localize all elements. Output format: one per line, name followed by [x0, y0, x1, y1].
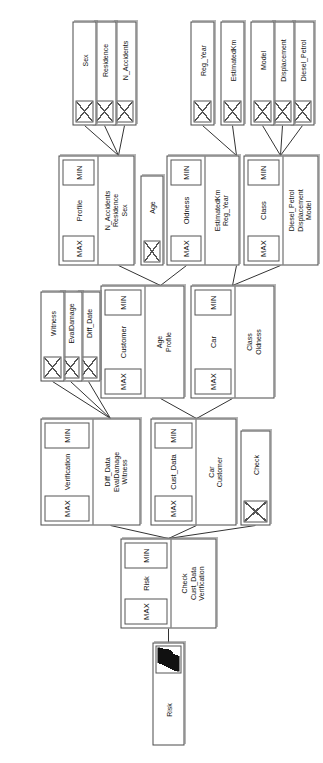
node-verification[interactable]: MAX Verification MIN Diff_Data EvalDamag…	[40, 418, 140, 525]
displacement-hatch-icon	[273, 100, 291, 122]
node-oldness-min: MIN	[170, 159, 201, 185]
node-class-min: MIN	[247, 159, 279, 185]
node-cust-data[interactable]: MAX Cust_Data MIN Car Customer	[150, 418, 236, 525]
node-profile-min: MIN	[62, 159, 94, 185]
node-cust-data-max: MAX	[154, 495, 192, 521]
node-profile-child-1: Residence	[111, 193, 120, 226]
node-customer-min: MIN	[104, 289, 141, 315]
age-hatch-icon	[143, 240, 160, 262]
edge-profile-to-n-accidents	[118, 125, 124, 155]
node-customer-title: Customer	[101, 318, 144, 365]
edge-class-to-diesel-petrol	[280, 125, 302, 155]
node-estimatedkm-label: EstimatedKm	[221, 22, 243, 98]
node-car[interactable]: MAX Car MIN Class Oldness	[190, 285, 274, 398]
reg-year-hatch-icon	[193, 100, 211, 122]
edge-profile-to-residence	[104, 125, 118, 155]
node-verification-child-2: Witness	[120, 459, 129, 484]
node-car-max: MAX	[194, 368, 231, 394]
node-class-children: Diesel_Petrol Displacement Model	[282, 156, 317, 264]
node-customer-children: Age Profile	[144, 286, 183, 397]
edge-class-to-displacement	[280, 125, 282, 155]
node-age-label: Age	[141, 176, 162, 238]
node-oldness-max: MAX	[170, 235, 201, 261]
node-class-child-2: Model	[304, 200, 313, 219]
node-reg-year[interactable]: Reg_Year	[190, 21, 214, 125]
edge-class-to-model	[262, 125, 280, 155]
model-hatch-icon	[253, 100, 271, 122]
node-oldness-children: EstimatedKm Reg_Year	[204, 156, 238, 264]
node-profile-child-0: N_Accidents	[103, 190, 112, 229]
diagram-canvas: Risk MAX Risk MIN Check Cust_Data Verifi…	[0, 0, 323, 763]
node-class-child-1: Displacement	[296, 189, 305, 231]
node-profile-header: MAX Profile MIN	[59, 156, 97, 264]
node-car-min: MIN	[194, 289, 231, 315]
node-class-child-0: Diesel_Petrol	[287, 189, 296, 231]
node-oldness-child-1: Reg_Year	[221, 195, 230, 226]
node-class-max: MAX	[247, 235, 279, 261]
node-cust-data-min: MIN	[154, 422, 192, 448]
node-class[interactable]: MAX Class MIN Diesel_Petrol Displacement…	[243, 155, 318, 265]
node-check[interactable]: Check	[240, 430, 270, 525]
node-risk[interactable]: MAX Risk MIN Check Cust_Data Verificatio…	[120, 538, 216, 628]
node-profile-max: MAX	[62, 235, 94, 261]
check-hatch-icon	[243, 500, 267, 522]
edge-customer-to-age	[160, 265, 186, 285]
node-sex-label: Sex	[73, 22, 95, 98]
node-profile-children: N_Accidents Residence Sex	[97, 156, 133, 264]
residence-hatch-icon	[95, 100, 113, 122]
node-risk-root-label: Risk	[153, 675, 183, 744]
node-age[interactable]: Age	[140, 175, 163, 265]
node-model[interactable]: Model	[250, 21, 274, 125]
node-customer-child-0: Age	[155, 335, 164, 347]
node-oldness-header: MAX Oldness MIN	[167, 156, 204, 264]
node-cust-data-title: Cust_Data	[151, 451, 195, 492]
edge-risk-to-check	[168, 525, 255, 538]
node-cust-data-header: MAX Cust_Data MIN	[151, 419, 195, 524]
node-risk-title: Risk	[121, 571, 170, 595]
node-risk-child-1: Cust_Data	[189, 566, 198, 599]
estimatedkm-hatch-icon	[223, 100, 241, 122]
node-car-child-0: Class	[245, 333, 254, 351]
node-car-title: Car	[191, 318, 234, 365]
node-class-header: MAX Class MIN	[244, 156, 282, 264]
node-customer-child-1: Profile	[164, 332, 173, 352]
edge-cust-data-to-car	[196, 398, 232, 418]
edge-car-to-oldness	[232, 265, 236, 285]
sex-hatch-icon	[75, 100, 93, 122]
node-customer-max: MAX	[104, 368, 141, 394]
node-estimatedkm[interactable]: EstimatedKm	[220, 21, 244, 125]
node-profile[interactable]: MAX Profile MIN N_Accidents Residence Se…	[58, 155, 134, 265]
node-cust-data-children: Car Customer	[195, 419, 235, 524]
node-car-children: Class Oldness	[234, 286, 273, 397]
node-profile-child-2: Sex	[120, 204, 129, 216]
node-cust-data-child-0: Car	[207, 466, 216, 477]
node-cust-data-child-1: Customer	[215, 456, 224, 486]
edge-car-to-class	[232, 265, 280, 285]
n-accidents-hatch-icon	[115, 100, 133, 122]
node-car-header: MAX Car MIN	[191, 286, 234, 397]
node-risk-root[interactable]: Risk	[152, 642, 184, 745]
node-risk-header: MAX Risk MIN	[121, 539, 170, 627]
diesel-petrol-hatch-icon	[293, 100, 311, 122]
node-model-label: Model	[251, 22, 273, 98]
node-class-title: Class	[244, 188, 282, 232]
node-verification-children: Diff_Data EvalDamage Witness	[92, 419, 139, 524]
node-verification-child-0: Diff_Data	[103, 457, 112, 486]
witness-hatch-icon	[43, 356, 61, 378]
node-sex[interactable]: Sex	[72, 21, 96, 125]
edge-customer-to-profile	[118, 265, 160, 285]
node-oldness[interactable]: MAX Oldness MIN EstimatedKm Reg_Year	[166, 155, 239, 265]
node-reg-year-label: Reg_Year	[191, 22, 213, 98]
edge-profile-to-sex	[84, 125, 118, 155]
edge-oldness-to-estimatedkm	[232, 125, 236, 155]
node-witness-label: Witness	[41, 292, 63, 354]
node-profile-title: Profile	[59, 188, 97, 232]
node-risk-max: MAX	[124, 598, 167, 624]
node-oldness-child-0: EstimatedKm	[213, 189, 222, 231]
node-verification-max: MAX	[44, 495, 89, 521]
node-check-label: Check	[241, 431, 269, 498]
node-witness[interactable]: Witness	[40, 291, 64, 381]
edge-oldness-to-reg-year	[202, 125, 236, 155]
node-customer[interactable]: MAX Customer MIN Age Profile	[100, 285, 184, 398]
node-risk-children: Check Cust_Data Verification	[170, 539, 215, 627]
